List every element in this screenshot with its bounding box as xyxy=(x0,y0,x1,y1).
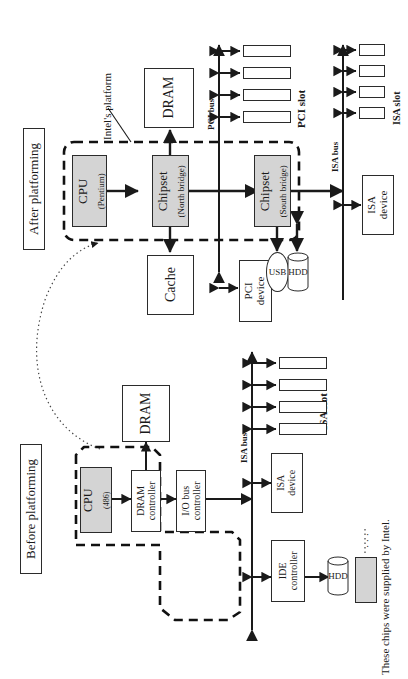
isa-slot-before xyxy=(279,357,327,369)
isa-slot-before xyxy=(279,401,327,413)
section-caption-after: After platforming xyxy=(23,128,45,250)
block-dram-after: DRAM xyxy=(144,68,194,128)
block-cache: Cache xyxy=(147,255,194,315)
block-isa-device-before: ISA device xyxy=(271,453,303,513)
isa-slot-after xyxy=(359,65,385,77)
block-cpu-pentium: CPU (Pentium) xyxy=(72,155,107,227)
isa-slot-before xyxy=(279,423,327,435)
block-usb: USB xyxy=(266,252,289,292)
legend-swatch xyxy=(355,557,377,603)
block-cpu-486: CPU (486) xyxy=(80,467,112,533)
section-caption-before: Before platforming xyxy=(20,444,42,574)
isa-slot-label-after: ISA slot xyxy=(392,91,403,125)
pci-slot xyxy=(243,89,291,101)
block-hdd-before: HDD xyxy=(327,556,349,596)
isa-slot-after xyxy=(359,107,385,119)
intel-platform-label: Intel's platform xyxy=(102,73,114,140)
isa-slot-after xyxy=(359,86,385,98)
isa-slot-before xyxy=(279,379,327,391)
block-dram-controller: DRAM controller xyxy=(131,470,161,532)
pci-slot xyxy=(243,67,291,79)
block-io-bus-controller: I/O bus controller xyxy=(176,470,206,532)
block-isa-device-after: ISA device xyxy=(362,175,394,235)
isa-bus-label-after: ISA bus xyxy=(331,142,340,172)
block-hdd-after: HDD xyxy=(287,252,309,292)
isa-bus-label-before: ISA bus xyxy=(240,433,249,463)
block-chipset-north-bridge: Chipset (North bridge) xyxy=(152,155,189,227)
isa-slot-after xyxy=(359,44,385,56)
pci-slot-label: PCI slot xyxy=(296,90,308,128)
block-chipset-south-bridge: Chipset (South bridge) xyxy=(254,155,291,227)
legend-note: These chips were supplied by Intel. xyxy=(380,519,392,675)
block-dram-before: DRAM xyxy=(122,385,170,442)
figure-canvas: After platforming Intel's platform CPU (… xyxy=(0,0,408,679)
legend-leader-dots: · · · xyxy=(363,533,374,548)
evolution-arrow xyxy=(37,243,100,449)
pci-bus-label: PCI bus xyxy=(207,99,216,130)
block-ide-controller: IDE controller xyxy=(271,540,305,602)
pci-slot xyxy=(243,111,291,123)
pci-slot xyxy=(243,45,291,57)
